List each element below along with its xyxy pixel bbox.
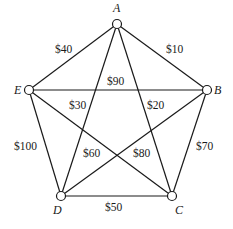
- edge-weight-label: $80: [133, 147, 151, 159]
- vertex-b: [203, 86, 212, 95]
- vertex-labels-layer: ABCDE: [13, 1, 222, 217]
- vertex-label-a: A: [112, 1, 121, 15]
- edge-weights-layer: $10$20$30$40$50$60$70$80$90$100: [14, 43, 214, 213]
- edge-weight-label: $70: [196, 140, 214, 152]
- graph-svg: $10$20$30$40$50$60$70$80$90$100 ABCDE: [0, 0, 233, 229]
- vertex-label-b: B: [214, 83, 222, 97]
- edge-weight-label: $40: [55, 43, 73, 55]
- vertex-a: [113, 20, 122, 29]
- edge-weight-label: $50: [105, 201, 123, 213]
- vertex-label-d: D: [52, 203, 62, 217]
- vertex-d: [57, 192, 66, 201]
- edge-weight-label: $60: [83, 147, 101, 159]
- edge-weight-label: $90: [107, 75, 125, 87]
- vertices-layer: [25, 20, 212, 201]
- edge-a-e: [29, 24, 117, 90]
- edge-weight-label: $10: [166, 43, 184, 55]
- edge-a-b: [117, 24, 207, 90]
- vertex-c: [168, 192, 177, 201]
- edge-weight-label: $100: [14, 140, 37, 152]
- vertex-e: [25, 86, 34, 95]
- vertex-label-c: C: [175, 203, 184, 217]
- edge-weight-label: $20: [147, 99, 165, 111]
- vertex-label-e: E: [13, 83, 22, 97]
- weighted-graph-diagram: $10$20$30$40$50$60$70$80$90$100 ABCDE: [0, 0, 233, 229]
- edge-weight-label: $30: [69, 99, 87, 111]
